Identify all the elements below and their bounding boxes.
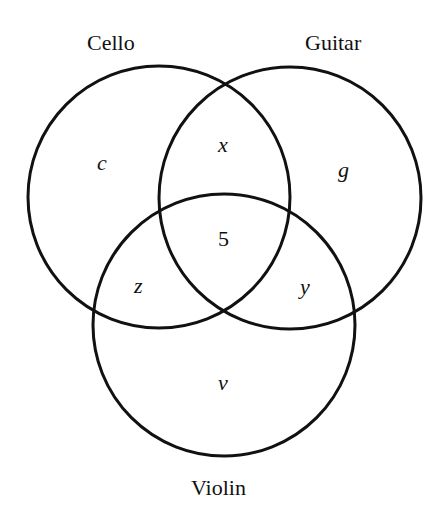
- region-cello-violin: z: [133, 273, 143, 298]
- venn-diagram: Cello Guitar Violin c x g 5 z y v: [0, 0, 437, 512]
- cello-label: Cello: [87, 30, 135, 55]
- region-guitar-violin: y: [298, 274, 310, 299]
- region-cello-guitar: x: [217, 132, 228, 157]
- violin-label: Violin: [191, 475, 246, 500]
- region-guitar-only: g: [338, 157, 349, 182]
- region-violin-only: v: [218, 370, 228, 395]
- region-cello-only: c: [97, 150, 107, 175]
- region-all-three: 5: [218, 226, 229, 251]
- guitar-label: Guitar: [305, 30, 362, 55]
